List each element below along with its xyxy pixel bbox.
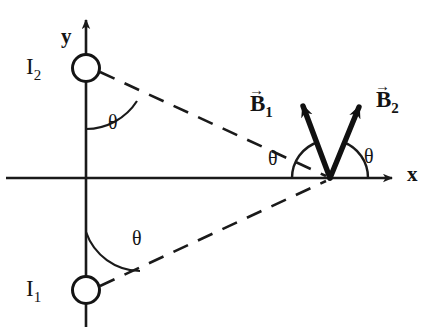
- vector-label-b1-subscript: 1: [265, 104, 273, 120]
- vector-label-b1: →B1: [250, 92, 273, 120]
- dashed-line-i2-to-point: [100, 72, 326, 176]
- vector-diagram-canvas: [0, 0, 444, 327]
- vector-arrow-overset-b2: →: [375, 79, 390, 94]
- vector-label-b2-symbol: →B2: [376, 88, 399, 116]
- vector-label-b2: →B2: [376, 88, 399, 116]
- angle-label-theta-b2: θ: [364, 146, 374, 166]
- x-axis-label: x: [407, 164, 418, 185]
- wire-label-i2-symbol: I: [26, 54, 34, 79]
- wire-label-i1-subscript: 1: [34, 289, 42, 305]
- angle-arc-b1-at-point: [292, 142, 318, 178]
- wire-label-i2-subscript: 2: [34, 67, 42, 83]
- angle-label-theta-b1: θ: [268, 148, 278, 168]
- wire-marker-i1: [73, 277, 100, 304]
- vector-label-b1-symbol: →B1: [250, 92, 273, 120]
- angle-label-theta-i1: θ: [132, 228, 142, 248]
- wire-label-i1-symbol: I: [26, 276, 34, 301]
- angle-label-theta-i2: θ: [108, 112, 118, 132]
- wire-label-i1: I1: [26, 277, 41, 305]
- wire-marker-i2: [73, 55, 100, 82]
- wire-label-i2: I2: [26, 55, 41, 83]
- vector-label-b2-subscript: 2: [391, 100, 399, 116]
- vector-b2: [330, 107, 359, 178]
- vector-arrow-overset-b1: →: [249, 83, 264, 98]
- y-axis-label: y: [61, 26, 72, 47]
